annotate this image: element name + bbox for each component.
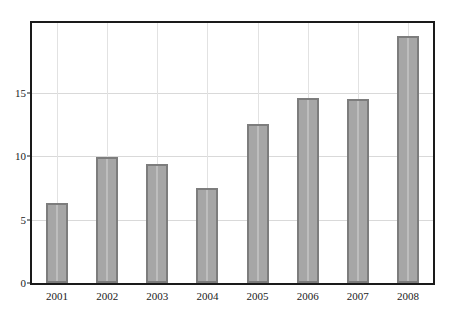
- bar-stripe: [206, 190, 208, 281]
- bar-stripe: [106, 159, 108, 281]
- bar-stripe: [407, 38, 409, 281]
- bar-stripe: [307, 100, 309, 281]
- plot-inner: [32, 23, 433, 283]
- gridline-horizontal: [32, 156, 433, 157]
- y-tick-label-5: 5: [0, 214, 26, 225]
- bar-stripe: [257, 126, 259, 281]
- bar-chart: 051015 20012002200320042005200620072008: [0, 0, 451, 319]
- x-tick-label-2002: 2002: [96, 290, 118, 303]
- bar-2005: [247, 124, 269, 283]
- bar-2004: [196, 188, 218, 283]
- plot-area: [30, 21, 435, 285]
- y-tick-label-0: 0: [0, 278, 26, 289]
- gridline-horizontal: [32, 93, 433, 94]
- y-axis-tick-labels: 051015: [0, 21, 26, 285]
- x-tick-label-2006: 2006: [297, 290, 319, 303]
- x-tick-label-2001: 2001: [46, 290, 68, 303]
- bar-2008: [397, 36, 419, 283]
- bar-stripe: [56, 205, 58, 281]
- x-tick-label-2004: 2004: [196, 290, 218, 303]
- bar-2002: [96, 157, 118, 283]
- bar-2006: [297, 98, 319, 283]
- x-tick-label-2003: 2003: [146, 290, 168, 303]
- bar-2007: [347, 99, 369, 283]
- bar-stripe: [357, 101, 359, 281]
- bar-stripe: [156, 166, 158, 281]
- x-tick-label-2008: 2008: [397, 290, 419, 303]
- y-tick-label-10: 10: [0, 151, 26, 162]
- x-tick-label-2005: 2005: [247, 290, 269, 303]
- bar-2003: [146, 164, 168, 283]
- y-tick-label-15: 15: [0, 87, 26, 98]
- gridline-horizontal: [32, 220, 433, 221]
- bar-2001: [46, 203, 68, 283]
- x-tick-label-2007: 2007: [347, 290, 369, 303]
